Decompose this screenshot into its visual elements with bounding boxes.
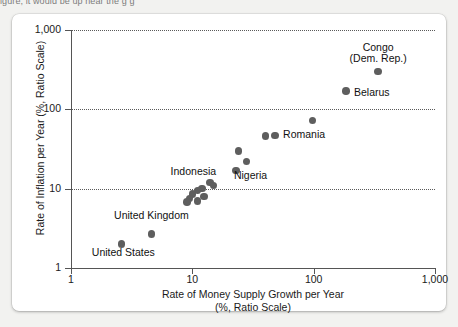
data-point bbox=[183, 198, 191, 206]
data-point bbox=[235, 147, 243, 155]
data-point bbox=[148, 230, 156, 238]
data-point bbox=[309, 117, 317, 125]
y-tick-label-100: 100 bbox=[0, 102, 61, 114]
label-line1: Congo bbox=[363, 41, 394, 53]
data-point bbox=[342, 87, 350, 95]
data-label-united-states: United States bbox=[92, 247, 155, 259]
data-label-belarus: Belarus bbox=[354, 87, 390, 99]
data-point bbox=[271, 132, 279, 140]
data-label-indonesia: Indonesia bbox=[171, 166, 217, 178]
label-line1: Indonesia bbox=[171, 165, 217, 177]
data-point bbox=[243, 158, 251, 166]
x-axis-line bbox=[71, 268, 435, 269]
label-line1: United Kingdom bbox=[114, 209, 189, 221]
x-tick-label-1000: 1,000 bbox=[405, 273, 458, 285]
label-line1: Romania bbox=[283, 128, 325, 140]
label-line1: Nigeria bbox=[234, 169, 267, 181]
y-tick-100 bbox=[65, 109, 72, 110]
y-axis-title: Rate of Inflation per Year (%, Ratio Sca… bbox=[34, 18, 46, 258]
gridline-y-1000 bbox=[71, 30, 435, 31]
x-tick-label-1: 1 bbox=[41, 273, 101, 285]
gridline-y-100 bbox=[71, 109, 435, 110]
data-label-united-kingdom: United Kingdom bbox=[114, 210, 189, 222]
scatter-plot-area: 1101001,000 1101001,000 Congo(Dem. Rep.)… bbox=[12, 14, 446, 311]
cropped-caption-text: igure, it would be up near the g g bbox=[0, 0, 458, 8]
label-line2: (Dem. Rep.) bbox=[350, 53, 407, 65]
x-axis-title: Rate of Money Supply Growth per Year (%,… bbox=[71, 288, 435, 313]
label-line1: United States bbox=[92, 246, 155, 258]
data-label-romania: Romania bbox=[283, 129, 325, 141]
y-axis-line bbox=[71, 30, 72, 270]
y-tick-label-1: 1 bbox=[0, 261, 61, 273]
x-tick-label-100: 100 bbox=[284, 273, 344, 285]
data-point bbox=[194, 197, 202, 205]
x-axis-title-line1: Rate of Money Supply Growth per Year bbox=[162, 288, 344, 300]
y-tick-1000 bbox=[65, 30, 72, 31]
y-tick-10 bbox=[65, 189, 72, 190]
gridline-y-10 bbox=[71, 189, 435, 190]
label-line1: Belarus bbox=[354, 86, 390, 98]
data-point bbox=[262, 132, 270, 140]
data-point bbox=[200, 193, 208, 201]
x-tick-label-10: 10 bbox=[162, 273, 222, 285]
x-axis-title-line2: (%, Ratio Scale) bbox=[71, 301, 435, 314]
figure-card: 1101001,000 1101001,000 Congo(Dem. Rep.)… bbox=[12, 14, 446, 311]
data-point bbox=[374, 68, 382, 76]
y-tick-label-10: 10 bbox=[0, 182, 61, 194]
data-label-nigeria: Nigeria bbox=[234, 170, 267, 182]
data-label-congo: Congo(Dem. Rep.) bbox=[350, 42, 407, 65]
y-tick-label-1000: 1,000 bbox=[0, 23, 61, 35]
